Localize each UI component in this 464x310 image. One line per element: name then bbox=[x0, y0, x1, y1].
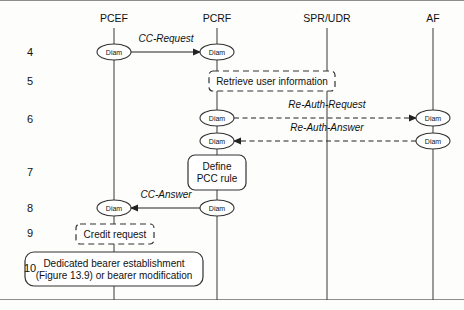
step-number-5: 5 bbox=[27, 75, 33, 87]
box-text-credit-request-0: Credit request bbox=[84, 229, 147, 240]
message-label-re-auth-answer: Re-Auth-Answer bbox=[290, 122, 364, 133]
message-label-re-auth-request: Re-Auth-Request bbox=[288, 99, 366, 110]
diam-node-label-diam-af-6b: Diam bbox=[425, 138, 442, 145]
step-number-10: 10 bbox=[24, 262, 36, 274]
step-number-4: 4 bbox=[27, 46, 33, 58]
lifeline-labels-layer: PCEFPCRFSPR/UDRAF bbox=[100, 12, 440, 24]
box-text-dedicated-bearer-establishment-1: (Figure 13.9) or bearer modification bbox=[36, 270, 193, 281]
step-number-9: 9 bbox=[27, 227, 33, 239]
diam-node-label-diam-pcrf-4: Diam bbox=[209, 49, 226, 56]
sequence-diagram-figure: CC-RequestRe-Auth-RequestRe-Auth-AnswerC… bbox=[0, 0, 464, 310]
diam-node-label-diam-pcrf-8: Diam bbox=[209, 205, 226, 212]
step-number-7: 7 bbox=[27, 166, 33, 178]
lifeline-label-af: AF bbox=[426, 12, 439, 24]
messages-layer: CC-RequestRe-Auth-RequestRe-Auth-AnswerC… bbox=[131, 33, 416, 208]
box-text-define-pcc-rule-0: Define bbox=[203, 161, 232, 172]
box-text-define-pcc-rule-1: PCC rule bbox=[197, 173, 238, 184]
diagram-canvas: CC-RequestRe-Auth-RequestRe-Auth-AnswerC… bbox=[0, 0, 464, 310]
step-numbers-layer: 45678910 bbox=[24, 46, 36, 274]
message-label-cc-answer: CC-Answer bbox=[140, 189, 192, 200]
lifeline-label-pcef: PCEF bbox=[100, 12, 128, 24]
box-text-retrieve-user-information-0: Retrieve user information bbox=[216, 76, 328, 87]
message-label-cc-request: CC-Request bbox=[138, 33, 194, 44]
diam-node-label-diam-af-6a: Diam bbox=[425, 115, 442, 122]
lifeline-label-pcrf: PCRF bbox=[203, 12, 232, 24]
step-number-6: 6 bbox=[27, 113, 33, 125]
diam-node-label-diam-pcef-4: Diam bbox=[106, 49, 123, 56]
diam-node-label-diam-pcrf-6a: Diam bbox=[209, 115, 226, 122]
diam-node-label-diam-pcrf-6b: Diam bbox=[209, 138, 226, 145]
step-number-8: 8 bbox=[27, 202, 33, 214]
diam-node-label-diam-pcef-8: Diam bbox=[106, 205, 123, 212]
box-text-dedicated-bearer-establishment-0: Dedicated bearer establishment bbox=[43, 258, 184, 269]
lifeline-label-spr_udr: SPR/UDR bbox=[303, 12, 351, 24]
